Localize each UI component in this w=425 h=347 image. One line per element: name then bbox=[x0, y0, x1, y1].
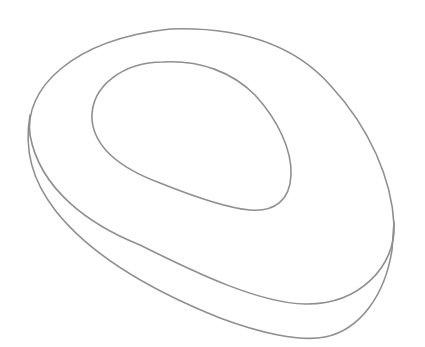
drawing-canvas bbox=[0, 0, 425, 347]
side-edge bbox=[28, 115, 394, 338]
inner-rim bbox=[92, 62, 291, 210]
outer-rim bbox=[29, 29, 394, 304]
tray-outline-icon bbox=[0, 0, 425, 347]
